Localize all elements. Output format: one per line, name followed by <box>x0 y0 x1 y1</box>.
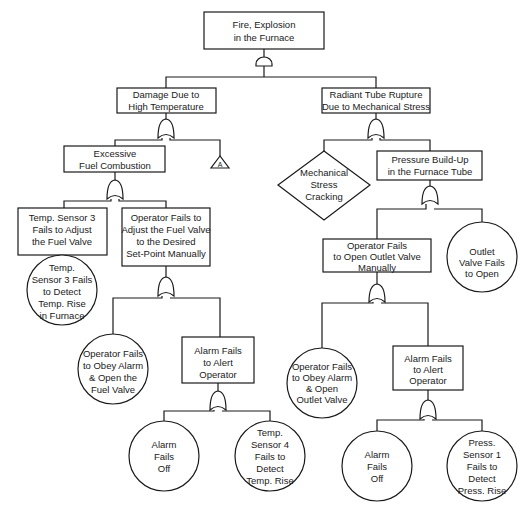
event-box-op-open-outlet[interactable]: Operator Fails to Open Outlet Valve Manu… <box>323 239 431 273</box>
basic-event-circle-ps1-detect[interactable]: Press. Sensor 1 Fails to Detect Press. R… <box>447 431 517 501</box>
transfer-triangle-icon[interactable]: A <box>211 156 229 168</box>
node-label: Temp. <box>49 262 75 273</box>
node-label: Operator Fails <box>292 361 352 372</box>
event-box-damage[interactable]: Damage Due to High Temperature <box>117 88 216 113</box>
node-label: to Obey Alarm <box>292 372 352 383</box>
node-label: Due to Mechanical Stress <box>322 101 430 112</box>
node-label: Alarm <box>152 439 177 450</box>
basic-event-circle-op-obey-fuel[interactable]: Operator Fails to Obey Alarm & Open the … <box>78 334 148 404</box>
event-box-op-adjust[interactable]: Operator Fails to Adjust the Fuel Valve … <box>121 208 210 266</box>
basic-event-circle-ts4-detect[interactable]: Temp. Sensor 4 Fails to Detect Temp. Ris… <box>235 421 305 491</box>
node-label: Alarm Fails <box>194 345 242 356</box>
node-label: Operator Fails <box>83 348 143 359</box>
node-label: the Fuel Valve <box>32 236 92 247</box>
fault-tree-diagram: Fire, Explosion in the Furnace Damage Du… <box>0 0 530 512</box>
or-gate-icon <box>369 284 385 302</box>
node-label: Radiant Tube Rupture <box>330 89 423 100</box>
node-label: Operator <box>199 369 237 380</box>
node-label: Mechanical <box>300 167 348 178</box>
or-gate-icon <box>422 186 438 204</box>
node-label: Detect <box>468 473 496 484</box>
node-label: Fails to <box>255 451 286 462</box>
node-label: Alarm <box>365 449 390 460</box>
node-label: Outlet <box>469 246 495 257</box>
basic-event-circle-alarm-off-2[interactable]: Alarm Fails Off <box>342 431 412 501</box>
node-label: Press. <box>469 437 496 448</box>
node-label: Excessive <box>94 148 137 159</box>
node-label: Operator Fails to <box>131 212 202 223</box>
node-label: to Open Outlet Valve <box>333 251 421 262</box>
node-label: Sensor 1 <box>463 449 501 460</box>
node-label: to Detect <box>43 286 81 297</box>
transfer-label: A <box>218 161 223 168</box>
node-label: Stress <box>311 179 338 190</box>
node-label: Temp. Rise <box>38 298 86 309</box>
node-label: Detect <box>256 463 284 474</box>
node-label: Adjust the Fuel Valve <box>121 224 210 235</box>
node-label: Off <box>371 473 384 484</box>
node-label: to Obey Alarm <box>83 360 143 371</box>
node-label: Set-Point Manually <box>126 248 206 259</box>
node-label: to Alert <box>203 357 233 368</box>
node-label: in Furnace <box>40 310 85 321</box>
node-label: High Temperature <box>128 101 203 112</box>
basic-event-circle-ts3-detect[interactable]: Temp. Sensor 3 Fails to Detect Temp. Ris… <box>27 255 97 325</box>
node-label: Fuel Combustion <box>79 160 151 171</box>
node-label: Fails to Adjust <box>32 224 91 235</box>
or-gate-icon <box>368 119 384 138</box>
event-box-alarm-alert-1[interactable]: Alarm Fails to Alert Operator <box>182 337 254 383</box>
node-label: Fails <box>367 461 387 472</box>
event-box-rupture[interactable]: Radiant Tube Rupture Due to Mechanical S… <box>322 88 430 113</box>
node-label: Fails <box>154 451 174 462</box>
or-gate-icon <box>107 180 123 199</box>
and-gate-icon <box>256 57 272 66</box>
node-label: to Alert <box>413 364 443 375</box>
node-label: Press. Rise <box>458 485 507 496</box>
node-label: Temp. <box>257 427 283 438</box>
node-label: Manually <box>358 262 396 273</box>
node-label: Damage Due to <box>133 89 200 100</box>
basic-event-circle-op-obey-outlet[interactable]: Operator Fails to Obey Alarm & Open Outl… <box>287 348 357 418</box>
basic-event-diamond-cracking[interactable]: Mechanical Stress Cracking <box>278 151 370 220</box>
basic-event-circle-outlet-fail[interactable]: Outlet Valve Fails to Open <box>447 222 517 292</box>
node-label: & Open <box>306 383 338 394</box>
or-gate-icon <box>420 400 436 419</box>
node-label: Temp. Rise <box>246 475 294 486</box>
event-box-ts3-adjust[interactable]: Temp. Sensor 3 Fails to Adjust the Fuel … <box>18 208 107 255</box>
or-gate-icon <box>158 277 174 296</box>
basic-event-circle-alarm-off-1[interactable]: Alarm Fails Off <box>129 421 199 491</box>
node-label: Fuel Valve <box>91 384 135 395</box>
node-label: to the Desired <box>136 236 195 247</box>
event-box-alarm-alert-2[interactable]: Alarm Fails to Alert Operator <box>393 346 463 390</box>
node-label: Outlet Valve <box>296 394 347 405</box>
node-label: Pressure Build-Up <box>391 154 468 165</box>
node-label: Alarm Fails <box>404 353 452 364</box>
node-label: Operator <box>409 375 447 386</box>
node-label: Temp. Sensor 3 <box>29 212 96 223</box>
node-label: to Open <box>465 268 499 279</box>
node-label: Fire, Explosion <box>233 19 296 30</box>
event-box-pressure[interactable]: Pressure Build-Up in the Furnace Tube <box>377 151 482 180</box>
node-label: in the Furnace Tube <box>388 166 473 177</box>
node-label: Off <box>158 463 171 474</box>
event-box-fuel[interactable]: Excessive Fuel Combustion <box>64 146 165 172</box>
node-label: Sensor 4 <box>251 439 289 450</box>
top-event-box[interactable]: Fire, Explosion in the Furnace <box>204 12 324 49</box>
node-label: Sensor 3 Fails <box>32 274 93 285</box>
node-label: Fails to <box>467 461 498 472</box>
node-label: in the Furnace <box>234 32 295 43</box>
node-label: Operator Fails <box>347 240 407 251</box>
node-label: & Open the <box>89 372 137 383</box>
node-label: Valve Fails <box>459 257 505 268</box>
node-label: Cracking <box>305 191 343 202</box>
or-gate-icon <box>210 391 226 410</box>
or-gate-icon <box>158 119 174 138</box>
